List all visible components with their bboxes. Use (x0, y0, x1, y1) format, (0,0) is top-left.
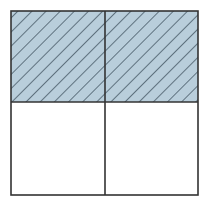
cell-bottom-right (105, 102, 198, 195)
cell-top-left (11, 11, 105, 102)
cell-bottom-left (11, 102, 105, 195)
cell-top-right (105, 11, 198, 102)
fraction-grid-diagram (0, 0, 208, 203)
